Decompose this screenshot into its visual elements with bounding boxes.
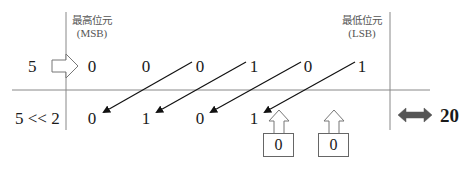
output-bit: 1 (250, 110, 259, 127)
fill-zero-box: 0 (318, 133, 349, 157)
equals-double-arrow-icon (398, 108, 432, 122)
lsb-abbr: (LSB) (342, 27, 382, 40)
msb-abbr: (MSB) (72, 27, 112, 40)
lsb-title: 最低位元 (342, 14, 382, 27)
msb-label: 最高位元 (MSB) (72, 14, 112, 40)
input-bit: 1 (250, 58, 259, 75)
fill-up-arrow-icon-2 (324, 110, 344, 133)
fill-zero-box: 0 (263, 133, 294, 157)
input-arrow-icon (52, 54, 78, 78)
output-bit: 0 (196, 110, 205, 127)
output-bit: 0 (88, 110, 97, 127)
msb-title: 最高位元 (72, 14, 112, 27)
operation-label: 5 << 2 (15, 110, 60, 127)
input-bit: 0 (88, 58, 97, 75)
input-bit: 0 (142, 58, 151, 75)
input-value-label: 5 (28, 58, 37, 75)
fill-up-arrow-icon-1 (269, 110, 289, 133)
result-value: 20 (440, 106, 459, 125)
diagram-lines (0, 0, 471, 171)
lsb-label: 最低位元 (LSB) (342, 14, 382, 40)
output-bit: 1 (142, 110, 151, 127)
input-bit: 0 (304, 58, 313, 75)
input-bit: 0 (196, 58, 205, 75)
input-bit: 1 (358, 58, 367, 75)
